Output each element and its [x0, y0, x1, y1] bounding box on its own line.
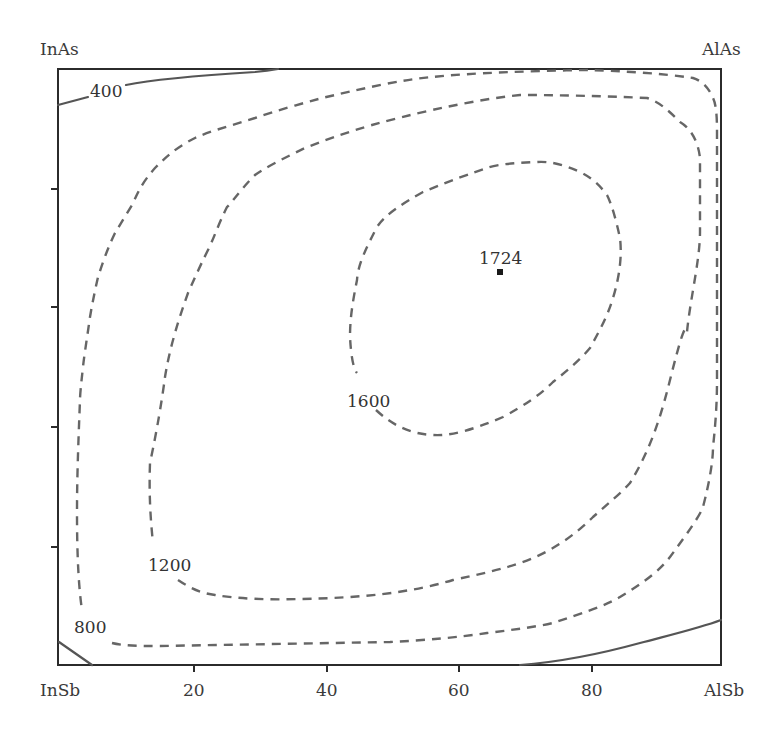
x-tick-label-80: 80	[581, 682, 603, 699]
x-tick-label-20: 20	[183, 682, 205, 699]
contour-label-1600: 1600	[347, 391, 390, 411]
corner-label-bottom-left: InSb	[40, 682, 80, 699]
contour-1600	[350, 162, 621, 435]
plot-frame	[58, 69, 721, 665]
maximum-label: 1724	[479, 248, 522, 268]
maximum-marker	[497, 269, 503, 275]
corner-label-top-left: InAs	[40, 41, 79, 58]
contour-chart: 400 800 1200 1600 1724	[0, 0, 782, 736]
contour-label-400: 400	[90, 81, 122, 101]
contour-label-800: 800	[74, 617, 106, 637]
y-axis-ticks	[51, 189, 58, 547]
contour-400	[58, 69, 721, 665]
x-tick-label-40: 40	[316, 682, 338, 699]
corner-label-top-right: AlAs	[702, 41, 741, 58]
x-axis-ticks	[194, 665, 592, 672]
corner-label-bottom-right: AlSb	[704, 682, 744, 699]
contour-label-1200: 1200	[148, 555, 191, 575]
x-tick-label-60: 60	[448, 682, 470, 699]
contour-1200	[150, 95, 700, 599]
